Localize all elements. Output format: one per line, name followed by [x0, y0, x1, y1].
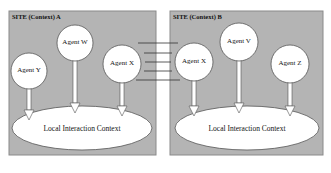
site-b-context-label: Local Interaction Context: [187, 124, 307, 133]
agent-z-label: Agent Z: [270, 59, 310, 67]
agent-v-label: Agent V: [219, 37, 259, 45]
agent-x-b-label: Agent X: [174, 57, 214, 65]
site-b-label: SITE (Context) B: [173, 13, 222, 20]
site-a-context-label: Local Interaction Context: [22, 124, 142, 133]
site-a-label: SITE (Context) A: [12, 13, 61, 20]
agent-x-a-label: Agent X: [102, 59, 142, 67]
agent-w-label: Agent W: [55, 38, 95, 46]
agent-y-label: Agent Y: [9, 66, 49, 74]
diagram-canvas: [0, 0, 331, 173]
